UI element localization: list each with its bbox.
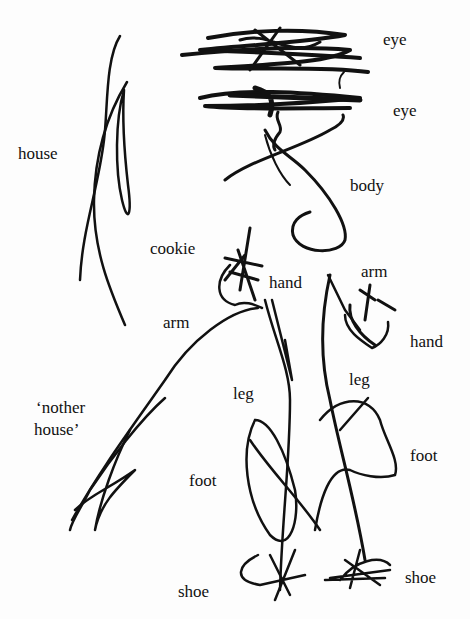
body-strokes (225, 112, 345, 251)
child-drawing: eye eye house body cookie hand arm arm h… (0, 0, 470, 619)
arm-left-stroke (72, 308, 258, 520)
label-leg-right: leg (349, 370, 370, 390)
eye-bottom-scribble (200, 72, 360, 115)
leg-strokes (265, 275, 365, 590)
house-strokes (80, 36, 130, 325)
shoe-left-scribble (241, 550, 305, 600)
label-eye-top: eye (383, 30, 407, 50)
label-leg-left: leg (233, 384, 254, 404)
label-foot-left: foot (189, 471, 216, 491)
arm-right-hand-scribble (345, 285, 395, 348)
shoe-right-scribble (325, 550, 390, 588)
drawing-strokes (0, 0, 470, 619)
label-nother-house-2: house’ (34, 420, 79, 440)
label-hand-right: hand (410, 332, 443, 352)
label-house: house (18, 144, 58, 164)
cookie-hand-scribble (219, 228, 262, 308)
label-hand-left: hand (269, 273, 302, 293)
label-eye-bottom: eye (393, 101, 417, 121)
label-arm-left: arm (163, 313, 189, 333)
eye-top-scribble (182, 28, 368, 72)
label-arm-right: arm (361, 262, 387, 282)
label-body: body (350, 176, 384, 196)
label-shoe-left: shoe (178, 582, 209, 602)
label-shoe-right: shoe (405, 568, 436, 588)
label-nother-house-1: ‘nother (36, 398, 85, 418)
label-foot-right: foot (410, 446, 437, 466)
label-cookie: cookie (150, 239, 195, 259)
